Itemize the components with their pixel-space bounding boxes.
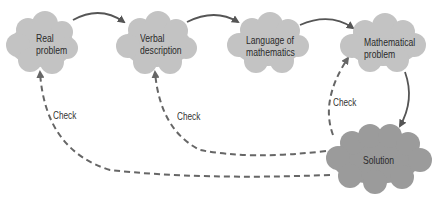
check-arrow-to-real (40, 72, 330, 177)
node-line: Language of (246, 34, 295, 46)
flow-diagram (0, 0, 442, 197)
node-line: description (140, 44, 182, 56)
node-line: Solution (363, 154, 394, 166)
node-line: Real (36, 32, 67, 44)
node-real-problem-label: Real problem (36, 32, 67, 56)
check-label-verbal: Check (177, 111, 200, 123)
node-solution-label: Solution (363, 154, 394, 166)
node-line: mathematics (246, 46, 295, 58)
arrow-real-to-verbal (73, 13, 124, 22)
node-line: Verbal (140, 32, 182, 44)
node-line: problem (364, 48, 415, 60)
node-line: problem (36, 44, 67, 56)
check-label-math: Check (333, 97, 356, 109)
arrow-verbal-to-language (187, 15, 238, 22)
node-mathematical-problem-label: Mathematical problem (364, 36, 415, 60)
check-label-real: Check (53, 110, 76, 122)
node-verbal-description-label: Verbal description (140, 32, 182, 56)
arrow-language-to-math (300, 19, 353, 28)
node-line: Mathematical (364, 36, 415, 48)
node-language-label: Language of mathematics (246, 34, 295, 58)
arrow-math-to-solution (400, 72, 409, 126)
